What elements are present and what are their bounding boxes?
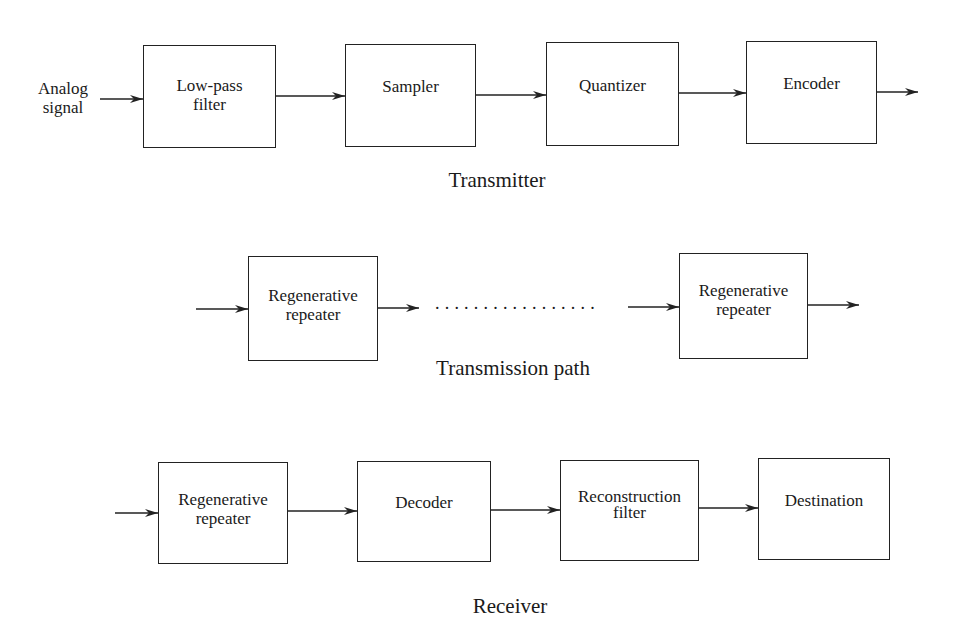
- block-label: Encoder: [783, 74, 840, 93]
- label-line: Analog: [28, 79, 98, 98]
- block-label: Quantizer: [579, 76, 646, 95]
- block-label: Regenerative: [699, 281, 789, 300]
- low-pass-filter-block: Low-pass filter: [143, 45, 276, 148]
- block-label: Low-pass: [176, 76, 242, 95]
- regenerative-repeater-block: Regenerative repeater: [158, 462, 288, 564]
- block-label: Regenerative: [268, 286, 358, 305]
- block-label: Destination: [785, 491, 863, 510]
- destination-block: Destination: [758, 458, 890, 560]
- block-label: repeater: [286, 305, 341, 324]
- encoder-block: Encoder: [746, 41, 877, 144]
- transmission-path-caption: Transmission path: [436, 356, 590, 381]
- regenerative-repeater-block: Regenerative repeater: [248, 256, 378, 361]
- ellipsis-dots: .................: [435, 293, 600, 314]
- transmitter-caption: Transmitter: [448, 168, 545, 193]
- block-label: filter: [613, 505, 646, 521]
- regenerative-repeater-block: Regenerative repeater: [679, 253, 808, 359]
- receiver-caption: Receiver: [473, 594, 548, 619]
- reconstruction-filter-block: Reconstruction filter: [560, 460, 699, 561]
- block-label: Sampler: [382, 77, 439, 96]
- sampler-block: Sampler: [345, 44, 476, 147]
- label-line: signal: [28, 98, 98, 117]
- decoder-block: Decoder: [357, 461, 491, 562]
- block-label: filter: [193, 95, 226, 114]
- quantizer-block: Quantizer: [546, 42, 679, 146]
- block-label: Regenerative: [178, 490, 268, 509]
- block-label: Decoder: [395, 493, 453, 512]
- block-label: repeater: [716, 300, 771, 319]
- block-label: repeater: [196, 509, 251, 528]
- analog-signal-label: Analog signal: [28, 79, 98, 117]
